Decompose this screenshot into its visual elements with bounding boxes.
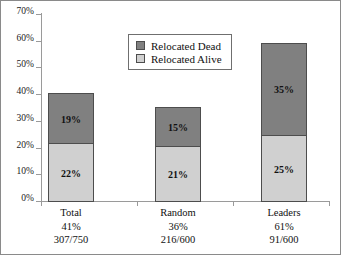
- chart-legend: Relocated DeadRelocated Alive: [128, 34, 232, 70]
- y-axis-tick-label: 10%: [17, 166, 34, 176]
- bar-leaders[interactable]: 35%25%: [261, 43, 307, 201]
- legend-swatch-icon: [136, 54, 145, 63]
- bar-segment-relocated-alive[interactable]: 22%: [48, 143, 94, 202]
- chart-figure: 0%10%20%30%40%50%60%70% 19%22%15%21%35%2…: [0, 0, 341, 255]
- bar-segment-relocated-alive[interactable]: 25%: [261, 135, 307, 202]
- legend-item-label: Relocated Alive: [151, 53, 222, 65]
- bar-random[interactable]: 15%21%: [155, 107, 201, 201]
- category-fraction: 307/750: [16, 233, 126, 247]
- y-axis-tick-label: 40%: [17, 86, 34, 96]
- category-percent: 41%: [16, 220, 126, 234]
- legend-swatch-icon: [136, 41, 145, 50]
- y-axis-tick-label: 60%: [17, 33, 34, 43]
- category-label-total: Total41%307/750: [16, 206, 126, 247]
- category-label-random: Random36%216/600: [123, 206, 233, 247]
- legend-item-label: Relocated Dead: [151, 40, 221, 52]
- category-name: Leaders: [229, 206, 339, 220]
- y-axis-tick-label: 0%: [21, 193, 34, 203]
- bar-segment-relocated-dead[interactable]: 15%: [155, 107, 201, 147]
- category-percent: 36%: [123, 220, 233, 234]
- bar-segment-label: 25%: [262, 163, 306, 174]
- bar-segment-label: 19%: [49, 113, 93, 124]
- bar-total[interactable]: 19%22%: [48, 93, 94, 201]
- category-label-leaders: Leaders61%91/600: [229, 206, 339, 247]
- legend-item[interactable]: Relocated Alive: [136, 52, 222, 65]
- legend-item[interactable]: Relocated Dead: [136, 39, 222, 52]
- category-fraction: 216/600: [123, 233, 233, 247]
- y-axis-tick-label: 30%: [17, 113, 34, 123]
- category-name: Total: [16, 206, 126, 220]
- bar-segment-label: 15%: [156, 121, 200, 132]
- bar-segment-label: 22%: [49, 167, 93, 178]
- bar-segment-relocated-dead[interactable]: 19%: [48, 93, 94, 144]
- category-percent: 61%: [229, 220, 339, 234]
- y-axis-tick-label: 50%: [17, 59, 34, 69]
- bar-segment-label: 35%: [262, 84, 306, 95]
- bar-segment-label: 21%: [156, 168, 200, 179]
- y-axis-tick-label: 20%: [17, 140, 34, 150]
- y-axis-tick-label: 70%: [17, 6, 34, 16]
- bar-segment-relocated-alive[interactable]: 21%: [155, 146, 201, 202]
- category-fraction: 91/600: [229, 233, 339, 247]
- category-name: Random: [123, 206, 233, 220]
- bar-segment-relocated-dead[interactable]: 35%: [261, 43, 307, 137]
